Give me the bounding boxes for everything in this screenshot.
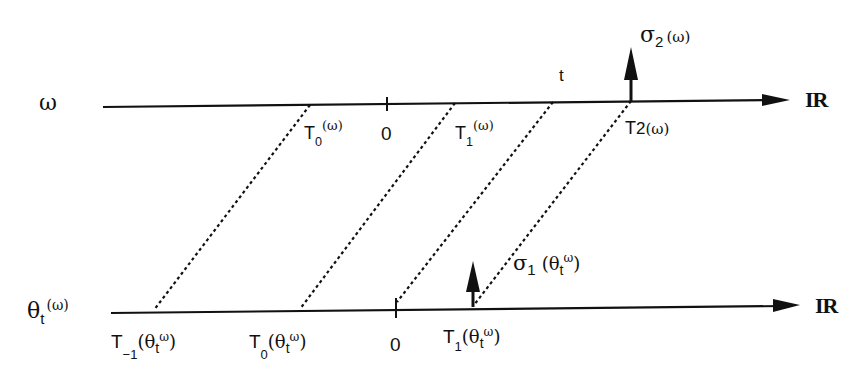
sigma2-label: σ2(ω) <box>640 24 690 49</box>
bottom-axis <box>111 298 800 318</box>
top-t2-label: T2(ω) <box>625 119 669 137</box>
diagram-canvas <box>0 0 867 383</box>
shift-lines <box>154 101 631 310</box>
top-axis <box>103 94 790 111</box>
shift-line-t0-to-t-1 <box>154 105 310 310</box>
bottom-t-1-label: T−1(θtω) <box>111 331 176 355</box>
bottom-zero-label: 0 <box>390 335 401 354</box>
sigma1-arrow <box>466 261 480 307</box>
sigma2-arrow <box>624 47 638 101</box>
top-axis-arrowhead <box>762 94 790 106</box>
top-zero-label: 0 <box>381 124 392 143</box>
top-t1-label: T1(ω) <box>455 121 494 146</box>
top-t-label: t <box>559 67 564 84</box>
bottom-t1-label: T1(θtω) <box>443 326 500 350</box>
bottom-axis-theta-label: θt(ω) <box>27 298 69 326</box>
sigma1-label: σ1(θtω) <box>513 252 580 277</box>
top-t0-label: T0(ω) <box>304 121 343 146</box>
top-axis-omega-label: ω <box>39 92 57 114</box>
top-axis-ir-label: IR <box>805 89 827 111</box>
bottom-t0-label: T0(θtω) <box>249 331 306 355</box>
bottom-axis-arrowhead <box>773 299 800 312</box>
bottom-axis-ir-label: IR <box>815 295 837 317</box>
